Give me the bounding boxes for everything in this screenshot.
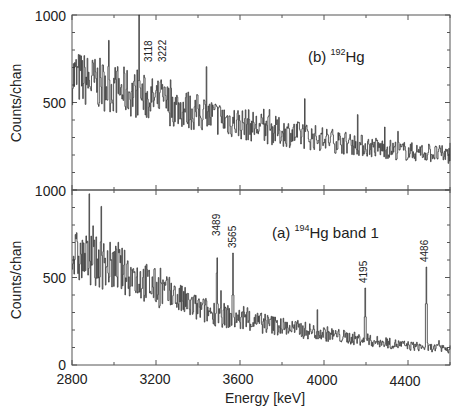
- peak-label-3489: 3489: [211, 213, 222, 236]
- xtick-4000: 4000: [306, 372, 337, 388]
- spectrum-192hg: [72, 15, 450, 163]
- spectrum-194hg-band1: [72, 194, 450, 353]
- xtick-3200: 3200: [139, 371, 170, 387]
- panel-b-title: (b) 192Hg: [308, 47, 365, 65]
- ytick-bottom-500: 500: [43, 270, 67, 286]
- peak-label-3118: 3118: [143, 40, 154, 62]
- ylabel-bottom: Counts/chan: [8, 241, 24, 320]
- xtick-4400: 4400: [389, 373, 420, 389]
- xtick-2800: 2800: [56, 371, 87, 387]
- xlabel: Energy [keV]: [225, 390, 305, 406]
- ytick-mid-1000: 1000: [35, 183, 66, 199]
- xtick-3600: 3600: [222, 371, 253, 387]
- gamma-spectrum-figure: 1000 500 1000 500 0 Counts/chan Counts/c…: [0, 0, 459, 417]
- peak-label-3222: 3222: [157, 39, 168, 62]
- ytick-top-500: 500: [43, 95, 67, 111]
- ylabel-top: Counts/chan: [8, 64, 24, 143]
- peak-label-4195: 4195: [358, 260, 369, 283]
- ytick-top-1000: 1000: [35, 8, 66, 24]
- peak-label-3565: 3565: [227, 225, 238, 248]
- peak-label-4486: 4486: [419, 239, 430, 262]
- panel-a-title: (a) 194Hg band 1: [272, 223, 379, 241]
